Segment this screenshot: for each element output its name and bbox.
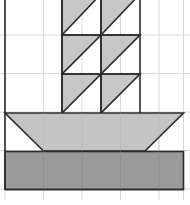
sailboat-diagram: Sailboat tangram pattern on grid <box>0 0 190 205</box>
hull-base <box>5 152 184 190</box>
figure-canvas: Sailboat tangram pattern on grid <box>0 0 190 205</box>
